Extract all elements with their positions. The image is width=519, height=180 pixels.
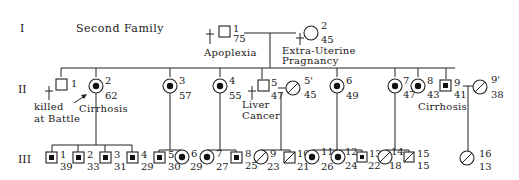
gen3-individual-2: 2 33 bbox=[73, 149, 100, 172]
gen3-individual-3: 3 31 bbox=[100, 149, 127, 172]
pedigree-chart: I II III Second Family 1 75 Apoplexia 2 … bbox=[0, 0, 519, 180]
gen2-individual-6: 6 49 bbox=[330, 75, 359, 101]
gen3-individual-7: 7 27 bbox=[200, 148, 229, 172]
svg-text:55: 55 bbox=[229, 90, 242, 101]
svg-text:75: 75 bbox=[233, 33, 246, 44]
svg-text:49: 49 bbox=[346, 90, 359, 101]
svg-text:57: 57 bbox=[179, 90, 192, 101]
svg-text:5: 5 bbox=[168, 149, 174, 160]
svg-text:6: 6 bbox=[191, 148, 197, 159]
svg-text:8: 8 bbox=[245, 148, 251, 159]
svg-text:45: 45 bbox=[304, 89, 317, 100]
gen2-individual-9prime: 9' 38 bbox=[473, 74, 504, 100]
svg-text:5': 5' bbox=[304, 75, 313, 86]
gen3-individual-9: 9 23 bbox=[254, 148, 280, 172]
svg-text:2: 2 bbox=[105, 75, 111, 86]
svg-text:16: 16 bbox=[479, 148, 492, 159]
svg-text:2: 2 bbox=[87, 149, 93, 160]
svg-text:9: 9 bbox=[270, 148, 276, 159]
male-square-icon bbox=[219, 26, 230, 37]
male-square-icon bbox=[56, 79, 67, 90]
svg-text:29: 29 bbox=[190, 161, 203, 172]
svg-text:killed: killed bbox=[34, 101, 64, 112]
svg-text:9: 9 bbox=[454, 77, 460, 88]
gen3-individual-15: 15 15 bbox=[404, 148, 430, 171]
svg-text:13: 13 bbox=[479, 161, 492, 172]
svg-text:15: 15 bbox=[417, 160, 430, 171]
svg-text:Cirrhosis: Cirrhosis bbox=[79, 103, 128, 114]
gen2-individual-4: 4 55 bbox=[213, 75, 242, 101]
gen3-individual-1: 1 39 bbox=[46, 149, 73, 172]
cause-label: Apoplexia bbox=[203, 47, 257, 58]
gen2-individual-5: 5 47 Liver Cancer bbox=[242, 77, 284, 121]
svg-text:18: 18 bbox=[389, 160, 402, 171]
svg-text:1: 1 bbox=[71, 78, 77, 89]
svg-text:3: 3 bbox=[114, 149, 120, 160]
svg-text:38: 38 bbox=[491, 89, 504, 100]
svg-text:8: 8 bbox=[427, 75, 433, 86]
svg-text:15: 15 bbox=[417, 148, 430, 159]
svg-text:2: 2 bbox=[321, 20, 327, 31]
svg-text:4: 4 bbox=[229, 75, 235, 86]
svg-text:at Battle: at Battle bbox=[34, 113, 80, 124]
svg-text:47: 47 bbox=[271, 90, 284, 101]
generation-label-II: II bbox=[18, 83, 27, 96]
svg-text:29: 29 bbox=[141, 161, 154, 172]
gen2-individual-3: 3 57 bbox=[163, 75, 192, 101]
svg-text:22: 22 bbox=[368, 160, 381, 171]
svg-text:39: 39 bbox=[60, 161, 73, 172]
svg-text:33: 33 bbox=[87, 161, 100, 172]
svg-text:3: 3 bbox=[179, 75, 185, 86]
gen2-individual-1: 1 killed at Battle bbox=[34, 78, 80, 124]
svg-text:27: 27 bbox=[216, 161, 229, 172]
generation-label-I: I bbox=[20, 22, 24, 35]
gen3-individual-8: 8 25 bbox=[231, 148, 258, 171]
gen3-individual-16: 16 13 bbox=[460, 148, 492, 172]
svg-text:12: 12 bbox=[345, 146, 358, 157]
svg-text:45: 45 bbox=[321, 34, 334, 45]
gen2-individual-2: 2 62 Cirrhosis bbox=[74, 75, 128, 114]
chart-title: Second Family bbox=[76, 22, 164, 35]
svg-text:7: 7 bbox=[216, 148, 222, 159]
gen2-individual-9: 9 41 Cirrhosis bbox=[418, 77, 467, 112]
svg-text:Liver: Liver bbox=[242, 99, 270, 110]
svg-text:14: 14 bbox=[391, 146, 404, 157]
gen1-individual-2: 2 45 Extra-Uterine Pragnancy bbox=[282, 20, 356, 66]
svg-text:7: 7 bbox=[403, 75, 409, 86]
svg-text:Cirrhosis: Cirrhosis bbox=[418, 101, 467, 112]
male-square-icon bbox=[258, 80, 269, 91]
generation-label-III: III bbox=[18, 153, 31, 166]
gen2-individual-5prime: 5' 45 bbox=[286, 75, 317, 100]
svg-text:1: 1 bbox=[60, 149, 66, 160]
svg-text:43: 43 bbox=[427, 89, 440, 100]
svg-text:23: 23 bbox=[267, 161, 280, 172]
svg-text:31: 31 bbox=[114, 161, 127, 172]
svg-text:9': 9' bbox=[491, 74, 500, 85]
svg-text:24: 24 bbox=[345, 160, 358, 171]
svg-text:4: 4 bbox=[141, 149, 147, 160]
svg-text:5: 5 bbox=[271, 77, 277, 88]
female-circle-icon bbox=[304, 26, 318, 40]
gen3-individual-14: 14 18 bbox=[378, 146, 404, 171]
svg-text:41: 41 bbox=[454, 89, 467, 100]
cause-label: Pragnancy bbox=[282, 55, 339, 66]
svg-text:6: 6 bbox=[346, 75, 352, 86]
gen1-individual-1: 1 75 Apoplexia bbox=[203, 23, 257, 58]
svg-text:26: 26 bbox=[321, 161, 334, 172]
gen3-individual-4: 4 29 bbox=[127, 149, 154, 172]
svg-text:62: 62 bbox=[105, 90, 118, 101]
svg-text:Cancer: Cancer bbox=[242, 110, 280, 121]
